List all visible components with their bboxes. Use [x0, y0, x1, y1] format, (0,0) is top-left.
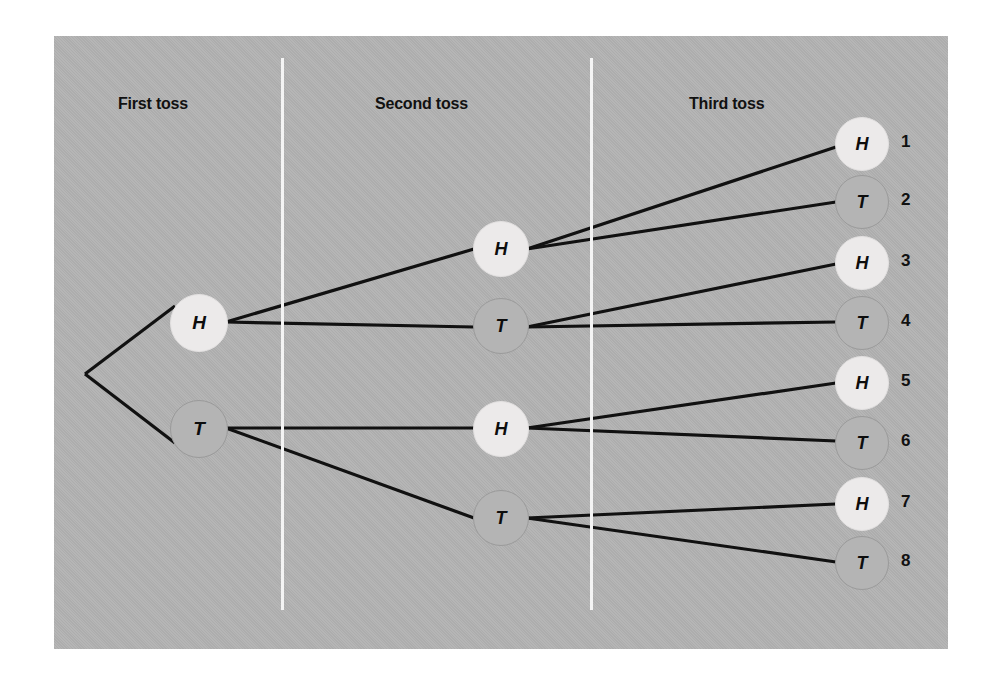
tree-node-label: H — [856, 373, 869, 394]
tree-edge-e-hh-2 — [527, 202, 836, 249]
tree-node-n3-hth[interactable]: H — [835, 236, 889, 290]
figure-stage: First tossSecond tossThird toss HTHTHTHT… — [0, 0, 988, 679]
stage-label-first: First toss — [118, 95, 188, 113]
tree-edge-e-h-hh — [226, 249, 474, 322]
edges-group — [85, 147, 836, 562]
divider-1 — [281, 58, 284, 610]
tree-edge-e-tt-7 — [527, 504, 836, 518]
tree-node-n2-ht[interactable]: T — [473, 298, 529, 354]
tree-node-label: H — [192, 312, 206, 334]
tree-node-n2-tt[interactable]: T — [473, 490, 529, 546]
tree-node-label: H — [856, 134, 869, 155]
tree-edge-e-ht-3 — [527, 264, 836, 327]
tree-node-label: H — [856, 494, 869, 515]
tree-node-label: T — [193, 418, 205, 440]
tree-node-label: T — [857, 433, 868, 454]
divider-2 — [590, 58, 593, 610]
outcome-8: 8 — [901, 551, 910, 571]
tree-node-n2-hh[interactable]: H — [473, 221, 529, 277]
tree-node-n3-thh[interactable]: H — [835, 356, 889, 410]
outcome-5: 5 — [901, 371, 910, 391]
tree-edge-e-hh-1 — [527, 147, 836, 249]
tree-edge-e-th-6 — [527, 428, 836, 441]
tree-edge-e-th-5 — [527, 383, 836, 428]
tree-node-label: H — [856, 253, 869, 274]
tree-node-label: H — [495, 419, 508, 440]
stage-label-second: Second toss — [375, 95, 468, 113]
tree-node-label: H — [495, 239, 508, 260]
tree-edge-e-h-ht — [226, 322, 474, 327]
outcome-7: 7 — [901, 492, 910, 512]
stage-label-third: Third toss — [689, 95, 764, 113]
tree-node-n3-tth[interactable]: H — [835, 477, 889, 531]
outcome-1: 1 — [901, 132, 910, 152]
tree-node-n1-t[interactable]: T — [170, 400, 228, 458]
tree-node-label: T — [496, 316, 507, 337]
tree-node-n3-hht[interactable]: T — [835, 175, 889, 229]
tree-node-n3-ttt[interactable]: T — [835, 536, 889, 590]
tree-node-label: T — [857, 553, 868, 574]
tree-edge-e-ht-4 — [527, 322, 836, 327]
outcome-3: 3 — [901, 251, 910, 271]
tree-edge-e-root-h — [85, 306, 175, 374]
tree-node-label: T — [496, 508, 507, 529]
outcome-6: 6 — [901, 431, 910, 451]
tree-edge-e-t-tt — [226, 428, 474, 518]
tree-node-n2-th[interactable]: H — [473, 401, 529, 457]
tree-node-label: T — [857, 313, 868, 334]
tree-edge-e-tt-8 — [527, 518, 836, 562]
outcome-4: 4 — [901, 311, 910, 331]
tree-node-n3-hhh[interactable]: H — [835, 117, 889, 171]
tree-node-n1-h[interactable]: H — [170, 294, 228, 352]
tree-node-n3-tht[interactable]: T — [835, 416, 889, 470]
tree-node-n3-htt[interactable]: T — [835, 296, 889, 350]
outcome-2: 2 — [901, 190, 910, 210]
tree-edge-e-root-t — [85, 374, 175, 443]
tree-node-label: T — [857, 192, 868, 213]
